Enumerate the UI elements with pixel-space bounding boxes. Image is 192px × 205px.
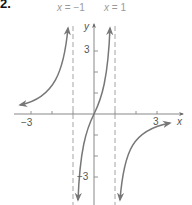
- curve-left-branch: [20, 28, 68, 105]
- curve-right-branch: [120, 123, 170, 200]
- y-tick-label-neg3: −3: [77, 171, 88, 182]
- x-tick-label-3: 3: [153, 116, 159, 127]
- y-tick-label-3: 3: [84, 44, 90, 55]
- y-axis-label: y: [84, 21, 89, 32]
- x-axis-label: x: [177, 116, 182, 127]
- graph: [0, 0, 192, 205]
- x-tick-label-neg3: −3: [21, 117, 32, 128]
